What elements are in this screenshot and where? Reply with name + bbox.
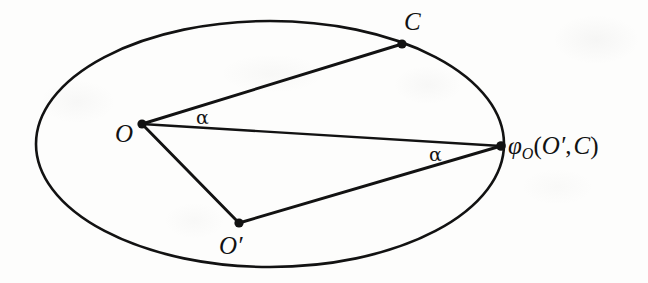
figure-canvas: O C O′ φO(O′, C) α α [0,0,648,283]
segment-O-to-O-prime [142,124,239,223]
phi-arg-second: C [574,132,591,159]
phi-comma: , [565,132,571,159]
vertex-dot-O [137,119,146,128]
angle-label-alpha-upper: α [196,108,209,127]
point-label-O: O [115,121,133,146]
phi-close-paren: ) [590,132,598,159]
vertex-dot-phi [496,141,506,151]
phi-open-paren: ( [533,132,541,159]
point-label-C: C [404,9,421,34]
angle-label-alpha-lower: α [429,145,442,164]
segment-O-to-C [142,44,402,124]
phi-arg-first: O′ [542,132,566,159]
point-label-O-prime: O′ [219,233,243,258]
phi-subscript: O [522,145,534,162]
segments-group [142,44,501,223]
vertex-dot-C [397,39,406,48]
phi-symbol: φ [508,132,522,159]
segment-O-prime-to-phi [239,146,501,223]
vertex-dot-O-prime [234,218,243,227]
point-label-phi: φO(O′, C) [508,133,599,162]
